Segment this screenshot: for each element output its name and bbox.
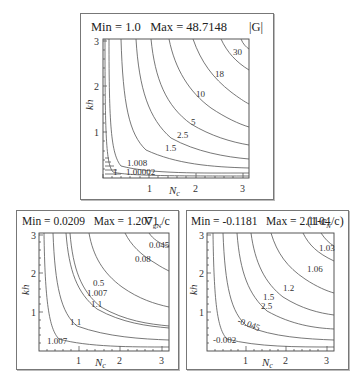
- contour-label: 18: [215, 69, 225, 79]
- panel-group-velocity: Min = 0.0209 Max = 1.2071 VgN/c 1 2 3 1 …: [16, 210, 179, 370]
- x-tick: 1: [147, 183, 152, 194]
- x-tick: 1: [76, 355, 81, 366]
- y-tick: 1: [199, 307, 204, 318]
- y-tick: 2: [94, 81, 99, 92]
- y-tick: 3: [31, 230, 36, 241]
- x-tick: 2: [283, 355, 288, 366]
- y-tick: 3: [199, 230, 204, 241]
- contour-label: 5: [191, 117, 196, 127]
- x-tick: 1: [243, 355, 248, 366]
- y-tick: 1: [31, 307, 36, 318]
- x-axis-label: Nc: [261, 356, 273, 370]
- contour-label: 1.03: [319, 243, 335, 253]
- contour-label: 1.00002: [126, 167, 155, 177]
- y-axis-label: kh: [19, 284, 31, 295]
- panel-G-magnitude: Min = 1.0 Max = 48.7148 |G| 1 2 3 1 2 3 …: [80, 13, 274, 200]
- x-tick: 2: [117, 355, 122, 366]
- y-tick: 2: [31, 268, 36, 279]
- contour-label: 2.5: [261, 301, 273, 311]
- contour-label: 1.06: [307, 264, 323, 274]
- y-axis-label: kh: [83, 99, 95, 110]
- contour-label: 2.5: [177, 130, 189, 140]
- y-axis-label: kh: [187, 284, 199, 295]
- contour-label: 1.2: [283, 283, 294, 293]
- contour-label: 1.007: [47, 336, 68, 346]
- contour-plot: 1 2 3 1 2 3 Nc kh 1.03 1.06 1.2 1.5 2.5 …: [187, 211, 348, 369]
- y-tick: 2: [199, 268, 204, 279]
- contour-label: -0.045: [236, 315, 262, 333]
- contour-plot: 1 2 3 1 2 3 Nc kh 0.045 0.08 0.5 1.007 1…: [17, 211, 178, 369]
- y-tick: 1: [94, 127, 99, 138]
- contour-label: 0.045: [149, 240, 170, 250]
- panel-phase-velocity: Min = -0.1181 Max = 2.1104 (1-cN/c) 1 2 …: [186, 210, 349, 370]
- contour-label: -0.002: [213, 335, 236, 345]
- contour-label: 1.007: [87, 288, 108, 298]
- contour-label: 1.1: [91, 299, 102, 309]
- contour-plot: 1 2 3 1 2 3 Nc kh 30 18 10 5 2.5 1.5 1.0…: [81, 14, 273, 199]
- contour-label: 1: [113, 167, 118, 177]
- contour-label: 1.1: [70, 317, 81, 327]
- x-axis-label: Nc: [168, 184, 180, 198]
- contour-label: 1.5: [165, 143, 177, 153]
- x-tick: 3: [324, 355, 329, 366]
- y-tick: 3: [94, 36, 99, 47]
- contour-label: 10: [196, 89, 206, 99]
- plot-frame: [103, 39, 249, 178]
- x-axis-label: Nc: [94, 356, 106, 370]
- contour-label: 0.08: [135, 254, 151, 264]
- x-tick: 3: [240, 183, 245, 194]
- x-tick: 2: [193, 183, 198, 194]
- x-tick: 3: [159, 355, 164, 366]
- contour-label: 0.5: [93, 278, 105, 288]
- contour-label: 30: [233, 47, 243, 57]
